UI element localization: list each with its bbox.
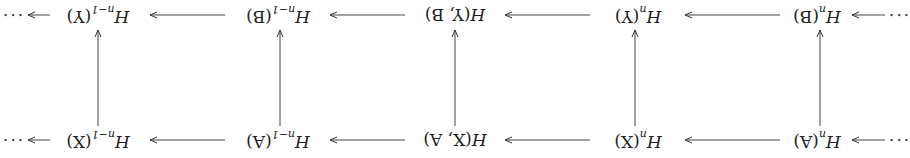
node-HnB: Hn(B) [793,3,841,26]
node-Hn1A: Hn−1(A) [246,128,310,151]
node-HnY: Hn(Y) [615,3,661,26]
diagram-stage: ··· ··· ··· ··· Hn(B) Hn(Y) H(Y, B) Hn−1… [0,0,910,158]
node-HnA: Hn(A) [793,128,840,151]
node-HXA: H(X, A) [423,130,486,150]
node-Hn1X: Hn−1(X) [66,128,130,151]
node-HYB: H(Y, B) [425,5,485,25]
ellipsis-left-bottom: ··· [887,130,909,150]
node-Hn1Y: Hn−1(Y) [67,3,130,26]
ellipsis-right-bottom: ··· [1,130,23,150]
node-Hn1B: Hn−1(B) [246,3,310,26]
commutative-diagram: ··· ··· ··· ··· Hn(B) Hn(Y) H(Y, B) Hn−1… [0,0,910,158]
ellipsis-right-top: ··· [1,5,23,25]
ellipsis-left-top: ··· [887,5,909,25]
node-HnX: Hn(X) [614,128,661,151]
